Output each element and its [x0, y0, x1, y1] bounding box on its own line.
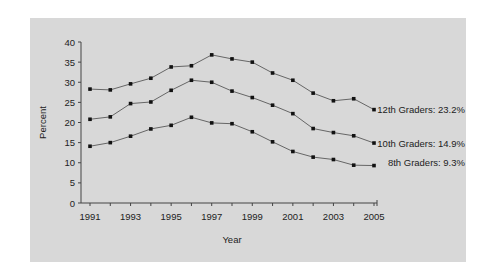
data-marker: [230, 89, 234, 93]
data-marker: [129, 102, 133, 106]
data-marker: [108, 115, 112, 119]
data-marker: [352, 97, 356, 101]
y-tick-label: 35: [64, 57, 75, 68]
series-label: 8th Graders: 9.3%: [388, 157, 466, 168]
y-tick-label: 0: [70, 198, 75, 209]
data-marker: [250, 130, 254, 134]
line-chart: 0510152025303540199119931995199719992001…: [0, 0, 496, 276]
data-marker: [108, 88, 112, 92]
y-tick-label: 10: [64, 157, 75, 168]
data-marker: [149, 100, 153, 104]
data-marker: [190, 115, 194, 119]
series-label: 12th Graders: 23.2%: [377, 104, 465, 115]
x-axis-title: Year: [222, 234, 241, 245]
data-marker: [230, 57, 234, 61]
data-marker: [190, 64, 194, 68]
data-marker: [372, 164, 376, 168]
data-marker: [210, 53, 214, 57]
series-label: 10th Graders: 14.9%: [377, 138, 465, 149]
data-marker: [352, 163, 356, 167]
x-tick-label: 1997: [201, 211, 222, 222]
data-marker: [169, 89, 173, 93]
data-marker: [169, 124, 173, 128]
data-marker: [88, 144, 92, 148]
series-line: [90, 55, 374, 110]
y-tick-label: 30: [64, 77, 75, 88]
x-tick-label: 2003: [323, 211, 344, 222]
data-marker: [149, 127, 153, 131]
data-marker: [291, 78, 295, 82]
x-tick-label: 2005: [363, 211, 384, 222]
data-marker: [88, 117, 92, 121]
data-marker: [332, 99, 336, 103]
data-marker: [129, 82, 133, 86]
data-marker: [372, 108, 376, 112]
data-marker: [271, 140, 275, 144]
data-marker: [291, 112, 295, 116]
data-marker: [332, 131, 336, 135]
data-marker: [190, 78, 194, 82]
data-marker: [271, 103, 275, 107]
data-marker: [311, 127, 315, 131]
x-tick-label: 1999: [242, 211, 263, 222]
data-marker: [352, 134, 356, 138]
data-marker: [210, 80, 214, 84]
x-tick-label: 1995: [161, 211, 182, 222]
data-marker: [149, 76, 153, 80]
y-tick-label: 25: [64, 97, 75, 108]
data-marker: [108, 141, 112, 145]
data-marker: [291, 150, 295, 154]
data-marker: [129, 134, 133, 138]
data-marker: [332, 158, 336, 162]
data-marker: [169, 65, 173, 69]
y-tick-label: 20: [64, 117, 75, 128]
y-tick-label: 15: [64, 137, 75, 148]
data-marker: [271, 71, 275, 75]
x-tick-label: 1991: [79, 211, 100, 222]
x-tick-label: 2001: [282, 211, 303, 222]
data-marker: [250, 96, 254, 100]
data-marker: [311, 155, 315, 159]
y-tick-label: 40: [64, 37, 75, 48]
x-tick-label: 1993: [120, 211, 141, 222]
data-marker: [250, 60, 254, 64]
data-marker: [210, 121, 214, 125]
data-marker: [88, 87, 92, 91]
y-axis-title: Percent: [37, 106, 48, 139]
data-marker: [311, 91, 315, 95]
data-marker: [230, 122, 234, 126]
y-tick-label: 5: [70, 177, 75, 188]
data-marker: [372, 141, 376, 145]
